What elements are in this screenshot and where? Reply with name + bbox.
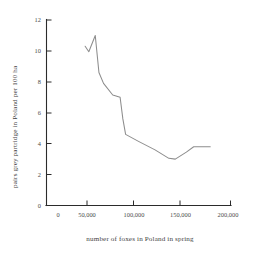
x-axis-title: number of foxes in Poland in spring (86, 235, 194, 243)
x-tick-label-200000: 200,000 (218, 211, 239, 218)
x-tick-label-150000: 150,000 (170, 211, 191, 218)
y-tick-label-6: 6 (38, 109, 41, 116)
y-axis-tick-labels: 12 10 8 6 4 2 0 (35, 16, 42, 209)
x-axis-tick-labels: 0 50,000 100,000 150,000 200,000 (56, 211, 238, 218)
x-tick-label-100000: 100,000 (124, 211, 145, 218)
data-series-line (85, 35, 210, 159)
chart-container: pairs grey partridge in Poland per 100 h… (0, 0, 263, 256)
y-tick-label-8: 8 (38, 78, 41, 85)
x-tick-label-0: 0 (56, 211, 59, 218)
y-tick-label-12: 12 (35, 16, 41, 23)
y-tick-label-0: 0 (38, 202, 41, 209)
y-tick-label-10: 10 (35, 47, 41, 54)
y-tick-label-2: 2 (38, 171, 41, 178)
y-axis-title: pairs grey partridge in Poland per 100 h… (11, 65, 19, 188)
x-axis-ticks (87, 201, 231, 206)
x-tick-label-50000: 50,000 (78, 211, 96, 218)
y-tick-label-4: 4 (38, 140, 42, 147)
chart-svg: pairs grey partridge in Poland per 100 h… (0, 0, 263, 256)
y-axis-ticks (47, 20, 52, 175)
